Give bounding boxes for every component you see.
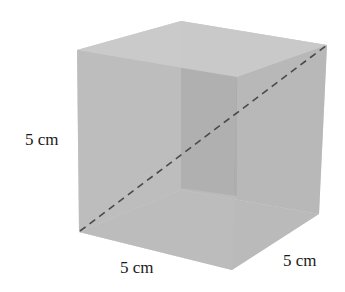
depth-label: 5 cm [283,252,317,269]
height-label: 5 cm [25,131,59,148]
cube-front-right-face [232,45,327,270]
width-label: 5 cm [120,259,154,276]
